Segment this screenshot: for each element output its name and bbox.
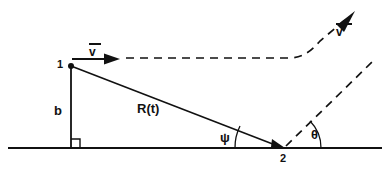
trajectory-dashed-path xyxy=(126,20,345,58)
velocity-prime-symbol: v' xyxy=(336,26,352,38)
point-2-marker xyxy=(271,139,285,148)
right-angle-marker xyxy=(71,139,80,148)
label-altitude-b: b xyxy=(54,104,62,117)
label-angle-psi: ψ xyxy=(220,131,230,144)
geometry-diagram-figure: 1 2 b R(t) ψ θ v v' xyxy=(0,0,392,172)
label-range-rt: R(t) xyxy=(137,102,159,115)
label-angle-theta: θ xyxy=(311,128,318,141)
range-vector-line xyxy=(71,66,283,148)
point-1-marker xyxy=(68,63,74,69)
label-point-2: 2 xyxy=(280,153,286,164)
label-velocity-vector: v xyxy=(89,43,101,58)
velocity-symbol: v xyxy=(89,46,101,58)
theta-ray-dashed xyxy=(286,62,372,146)
diagram-canvas xyxy=(0,0,392,172)
velocity-arrow-head xyxy=(104,54,120,65)
label-point-1: 1 xyxy=(57,59,63,70)
label-velocity-prime-vector: v' xyxy=(336,23,352,38)
